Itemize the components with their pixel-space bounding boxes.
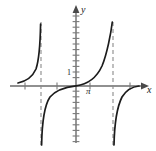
y-axis-arrow-icon <box>73 5 80 13</box>
x-tick-label-pi: π <box>86 87 91 96</box>
curve-branches <box>18 22 139 145</box>
tangent-graph-figure: y x 1 π <box>0 0 156 151</box>
curve-right-branch <box>114 86 139 145</box>
curve-center-branch <box>42 22 113 145</box>
y-axis-label: y <box>81 5 85 15</box>
y-axis <box>73 5 80 143</box>
asymptote-lines <box>41 22 113 146</box>
x-axis-label: x <box>147 85 151 95</box>
curve-left-branch <box>18 24 41 83</box>
graph-canvas <box>0 0 156 151</box>
y-tick-label-one: 1 <box>67 69 71 77</box>
